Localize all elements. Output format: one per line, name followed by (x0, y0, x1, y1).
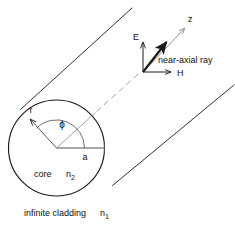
label-a: a (82, 152, 87, 162)
cylinder-lower-edge (113, 85, 235, 186)
fiber-axis-solid-segment (57, 113, 96, 149)
label-e-field: E (133, 32, 139, 42)
cladding-index-subscript: 1 (105, 213, 109, 220)
fiber-axis-dashed-segment (97, 73, 141, 112)
label-r: r (30, 105, 33, 115)
radial-vector-r (31, 120, 57, 149)
label-core-index: n2 (66, 169, 75, 181)
label-phi: ϕ (59, 119, 65, 130)
label-core: core (34, 169, 52, 179)
core-index-subscript: 2 (71, 174, 75, 181)
label-cladding-index: n1 (100, 208, 109, 220)
label-z-axis: z (188, 14, 193, 24)
fiber-diagram: r ϕ a core n2 infinite cladding n1 E H z… (0, 0, 235, 230)
label-near-axial-ray: near-axial ray (158, 55, 213, 65)
label-cladding: infinite cladding (24, 208, 86, 218)
fiber-diagram-canvas: r ϕ a core n2 infinite cladding n1 E H z… (0, 0, 235, 230)
label-h-field: H (177, 68, 184, 78)
